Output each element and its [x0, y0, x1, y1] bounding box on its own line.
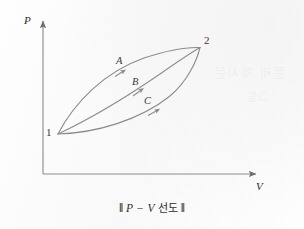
caption-math-text: P − V — [126, 202, 155, 214]
caption-open-bar: ‖ — [116, 202, 126, 214]
x-axis-label: V — [256, 180, 263, 192]
process-curve-a — [58, 47, 200, 134]
y-axis-label: P — [24, 14, 31, 26]
figure-caption: ‖P − V선도‖ — [0, 199, 304, 215]
state-label-2: 2 — [204, 34, 210, 46]
process-curve-b — [58, 48, 200, 135]
caption-korean-text: 선도 — [155, 202, 178, 215]
process-label-b: B — [132, 76, 138, 87]
process-label-c: C — [144, 95, 151, 106]
state-label-1: 1 — [46, 126, 52, 138]
pv-diagram-figure: P V 1 2 A B C 문제 제시문 그림 ‖P − V선도‖ — [0, 0, 304, 229]
process-curve-c-arrowhead — [148, 110, 158, 116]
process-label-a: A — [116, 55, 122, 66]
caption-close-bar: ‖ — [178, 202, 188, 214]
pv-diagram-plot — [0, 0, 304, 229]
